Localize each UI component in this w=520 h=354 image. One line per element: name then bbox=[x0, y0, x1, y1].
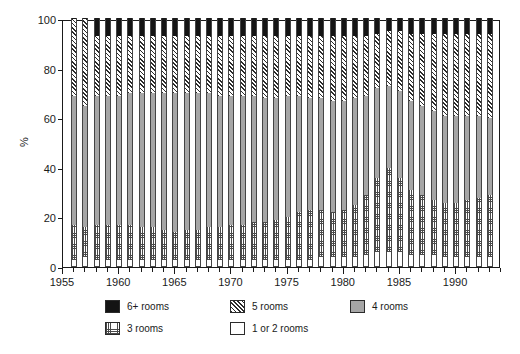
bar-segment bbox=[71, 96, 77, 225]
bar-segment bbox=[442, 203, 448, 258]
x-axis-minor-tick-mark bbox=[208, 268, 209, 272]
bar-segment bbox=[476, 19, 482, 34]
bar-segment bbox=[476, 257, 482, 267]
bar-segment bbox=[464, 116, 470, 200]
bar-segment bbox=[217, 96, 223, 227]
bar-segment bbox=[262, 222, 268, 259]
bar-stack bbox=[374, 19, 380, 267]
bar-segment bbox=[285, 260, 291, 267]
bar-segment bbox=[464, 34, 470, 116]
bar-segment bbox=[374, 252, 380, 267]
bar-series-container bbox=[63, 21, 499, 267]
bar-segment bbox=[172, 93, 178, 232]
y-axis-tick-label: 100 bbox=[26, 15, 56, 25]
bar-segment bbox=[184, 19, 190, 36]
bar-segment bbox=[94, 225, 100, 260]
legend-item: 5 rooms bbox=[230, 300, 288, 313]
x-axis-minor-tick-mark bbox=[376, 268, 377, 272]
bar-segment bbox=[195, 93, 201, 229]
bar-segment bbox=[150, 19, 156, 36]
bar-segment bbox=[453, 34, 459, 116]
bar-stack bbox=[307, 19, 313, 267]
bar-stack bbox=[296, 19, 302, 267]
bar-segment bbox=[397, 252, 403, 267]
bar-segment bbox=[352, 98, 358, 205]
bar-segment bbox=[251, 19, 257, 36]
bar-segment bbox=[487, 34, 493, 118]
x-axis-tick-label: 1975 bbox=[264, 276, 310, 288]
bar-stack bbox=[161, 19, 167, 267]
x-axis-minor-tick-mark bbox=[186, 268, 187, 272]
bar-segment bbox=[94, 96, 100, 225]
bar-segment bbox=[184, 36, 190, 93]
bar-stack bbox=[386, 19, 392, 267]
bar-segment bbox=[386, 168, 392, 252]
bar-segment bbox=[419, 34, 425, 106]
bar-stack-top-rule bbox=[307, 18, 313, 19]
bar-stack bbox=[273, 19, 279, 267]
bar-segment bbox=[150, 260, 156, 267]
legend-item: 1 or 2 rooms bbox=[230, 322, 308, 335]
bar-stack-top-rule bbox=[116, 18, 122, 19]
bar-segment bbox=[419, 19, 425, 34]
bar-segment bbox=[116, 225, 122, 260]
bar-segment bbox=[127, 36, 133, 93]
bar-stack bbox=[184, 19, 190, 267]
bar-segment bbox=[318, 210, 324, 257]
x-axis-minor-tick-mark bbox=[500, 268, 501, 272]
bar-segment bbox=[139, 36, 145, 93]
bar-segment bbox=[318, 19, 324, 36]
bar-stack bbox=[217, 19, 223, 267]
bar-segment bbox=[172, 19, 178, 36]
x-axis-minor-tick-mark bbox=[410, 268, 411, 272]
bar-segment bbox=[273, 260, 279, 267]
bar-segment bbox=[476, 116, 482, 198]
legend-label: 1 or 2 rooms bbox=[252, 323, 308, 334]
bar-segment bbox=[251, 96, 257, 222]
bar-segment bbox=[184, 260, 190, 267]
bar-segment bbox=[228, 225, 234, 260]
bar-stack-top-rule bbox=[172, 18, 178, 19]
x-axis-minor-tick-mark bbox=[354, 268, 355, 272]
bar-stack bbox=[251, 19, 257, 267]
bar-segment bbox=[105, 225, 111, 260]
bar-stack-top-rule bbox=[419, 18, 425, 19]
stacked-bar-chart-figure: % 020406080100 1955196019651970197519801… bbox=[0, 0, 520, 354]
bar-segment bbox=[116, 36, 122, 96]
x-axis-minor-tick-mark bbox=[320, 268, 321, 272]
bar-stack bbox=[464, 19, 470, 267]
bar-segment bbox=[150, 36, 156, 93]
x-axis-minor-tick-mark bbox=[489, 268, 490, 272]
bar-segment bbox=[273, 220, 279, 260]
bar-segment bbox=[94, 36, 100, 96]
bar-segment bbox=[105, 36, 111, 96]
x-axis-major-tick-mark bbox=[343, 268, 344, 274]
bar-stack-top-rule bbox=[139, 18, 145, 19]
legend-item: 3 rooms bbox=[105, 322, 163, 335]
bar-segment bbox=[217, 36, 223, 96]
bar-segment bbox=[296, 96, 302, 213]
bar-stack bbox=[240, 19, 246, 267]
bar-segment bbox=[397, 178, 403, 252]
bar-stack-top-rule bbox=[206, 18, 212, 19]
bar-segment bbox=[296, 212, 302, 259]
x-axis-minor-tick-mark bbox=[388, 268, 389, 272]
bar-segment bbox=[262, 98, 268, 222]
bar-stack-top-rule bbox=[184, 18, 190, 19]
bar-stack-top-rule bbox=[352, 18, 358, 19]
bar-segment bbox=[127, 260, 133, 267]
bar-stack bbox=[105, 19, 111, 267]
x-axis-minor-tick-mark bbox=[129, 268, 130, 272]
bar-segment bbox=[184, 230, 190, 260]
x-axis-minor-tick-mark bbox=[152, 268, 153, 272]
x-axis-tick-label: 1970 bbox=[207, 276, 253, 288]
bar-stack-top-rule bbox=[161, 18, 167, 19]
bar-segment bbox=[206, 260, 212, 267]
bar-segment bbox=[442, 34, 448, 116]
bar-stack-top-rule bbox=[240, 18, 246, 19]
x-axis-major-tick-mark bbox=[287, 268, 288, 274]
bar-segment bbox=[453, 257, 459, 267]
x-axis-minor-tick-mark bbox=[264, 268, 265, 272]
bar-stack bbox=[318, 19, 324, 267]
bar-segment bbox=[206, 36, 212, 93]
